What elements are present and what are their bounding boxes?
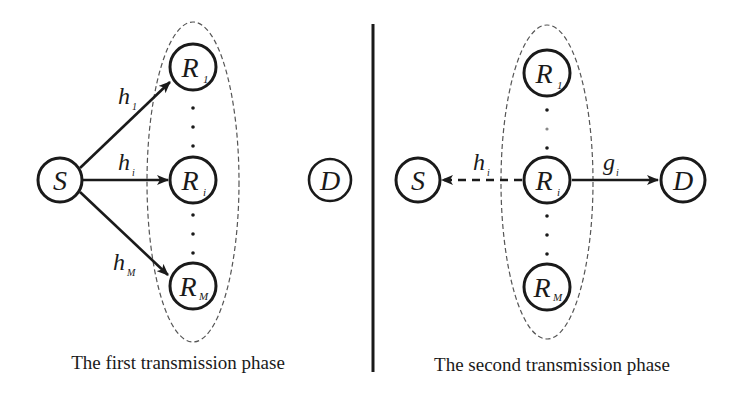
relay-ellipsis-upper — [545, 108, 549, 150]
svg-text:1: 1 — [557, 79, 563, 91]
label-hi-feedback: h i — [473, 149, 490, 178]
label-h1: h 1 — [118, 83, 137, 112]
label-hi: h i — [118, 149, 135, 178]
svg-text:1: 1 — [132, 101, 137, 112]
svg-text:i: i — [132, 167, 135, 178]
source-node: S — [396, 158, 440, 202]
first-phase-panel: h 1 h i h M S R 1 — [38, 22, 351, 342]
svg-text:g: g — [603, 149, 615, 175]
relay-ellipsis-lower — [191, 213, 195, 255]
svg-text:i: i — [557, 186, 560, 198]
svg-text:M: M — [126, 267, 136, 278]
svg-text:D: D — [319, 165, 340, 196]
relay-node-r1: R 1 — [170, 44, 216, 90]
relay-node-r1: R 1 — [524, 50, 570, 96]
svg-text:R: R — [178, 271, 196, 302]
svg-text:R: R — [180, 52, 198, 83]
svg-text:1: 1 — [203, 73, 209, 85]
relay-ellipsis-upper — [191, 106, 195, 148]
destination-node: D — [661, 158, 705, 202]
label-hm: h M — [113, 249, 136, 278]
svg-text:R: R — [534, 58, 552, 89]
relay-node-ri: R i — [524, 157, 570, 203]
svg-text:R: R — [180, 165, 198, 196]
svg-text:M: M — [552, 291, 563, 303]
relay-node-ri: R i — [170, 157, 216, 203]
svg-text:R: R — [532, 272, 550, 303]
svg-text:S: S — [411, 165, 425, 196]
svg-text:h: h — [473, 149, 485, 175]
svg-text:i: i — [616, 167, 619, 178]
svg-text:M: M — [198, 290, 209, 302]
relay-node-rm: R M — [524, 264, 570, 310]
second-phase-panel: h i g i S R 1 — [396, 25, 705, 339]
two-phase-relay-diagram: h 1 h i h M S R 1 — [0, 0, 735, 399]
source-node: S — [38, 158, 82, 202]
svg-text:h: h — [118, 83, 130, 109]
first-phase-caption: The first transmission phase — [71, 352, 285, 374]
svg-text:i: i — [203, 186, 206, 198]
svg-text:i: i — [487, 167, 490, 178]
svg-text:h: h — [118, 149, 130, 175]
svg-text:R: R — [534, 165, 552, 196]
relay-node-rm: R M — [170, 263, 216, 309]
second-phase-caption: The second transmission phase — [434, 354, 670, 376]
svg-text:h: h — [113, 249, 125, 275]
label-gi: g i — [603, 149, 619, 178]
destination-node: D — [309, 159, 351, 201]
relay-ellipsis-lower — [545, 214, 549, 256]
svg-text:D: D — [672, 165, 693, 196]
svg-text:S: S — [53, 165, 67, 196]
